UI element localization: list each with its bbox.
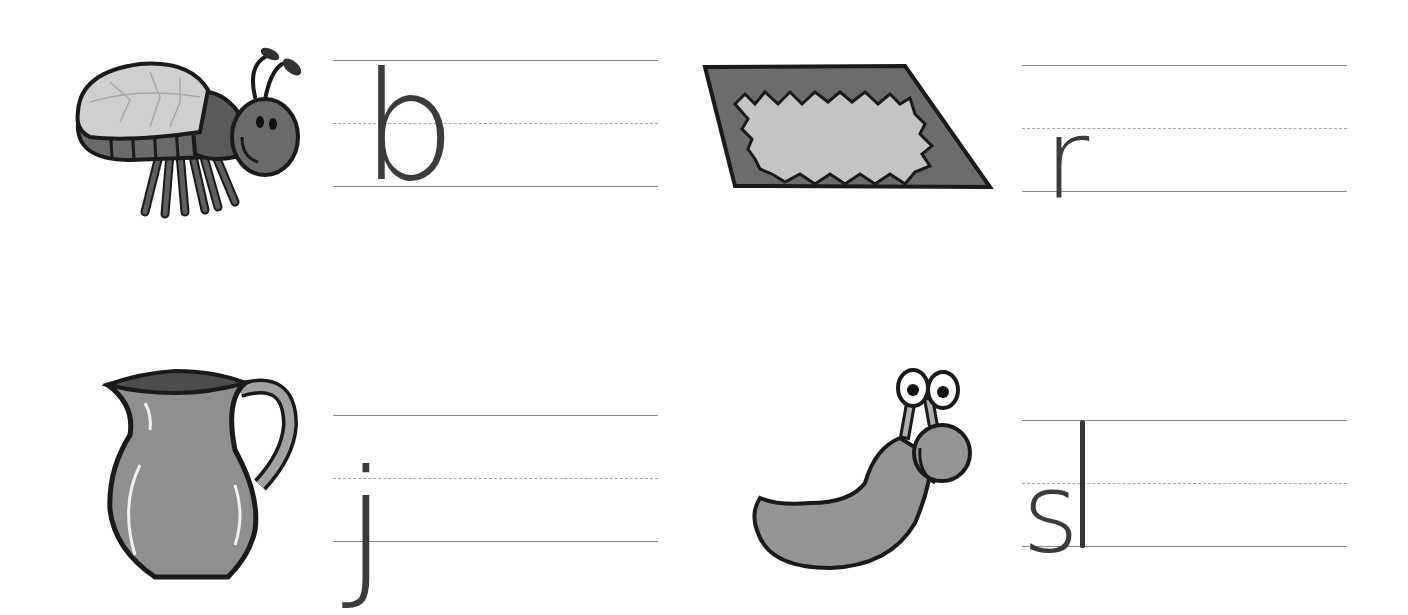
word-letters: j [345, 450, 387, 600]
bug-picture-icon [70, 42, 310, 224]
top-rule [1022, 65, 1347, 66]
rug-picture-icon [700, 62, 1025, 192]
top-rule [333, 415, 658, 416]
handwriting-lines: j [333, 415, 658, 545]
top-rule [1022, 420, 1347, 421]
word-letters: r [1044, 105, 1089, 215]
slug-picture-icon [750, 368, 980, 583]
tall-stroke-mark [1080, 420, 1085, 548]
handwriting-lines: s [1022, 420, 1347, 550]
jug-picture-icon [100, 355, 300, 585]
word-letters: b [361, 52, 456, 202]
word-letters: s [1022, 458, 1079, 568]
handwriting-lines: b [333, 60, 658, 190]
handwriting-lines: r [1022, 65, 1347, 195]
